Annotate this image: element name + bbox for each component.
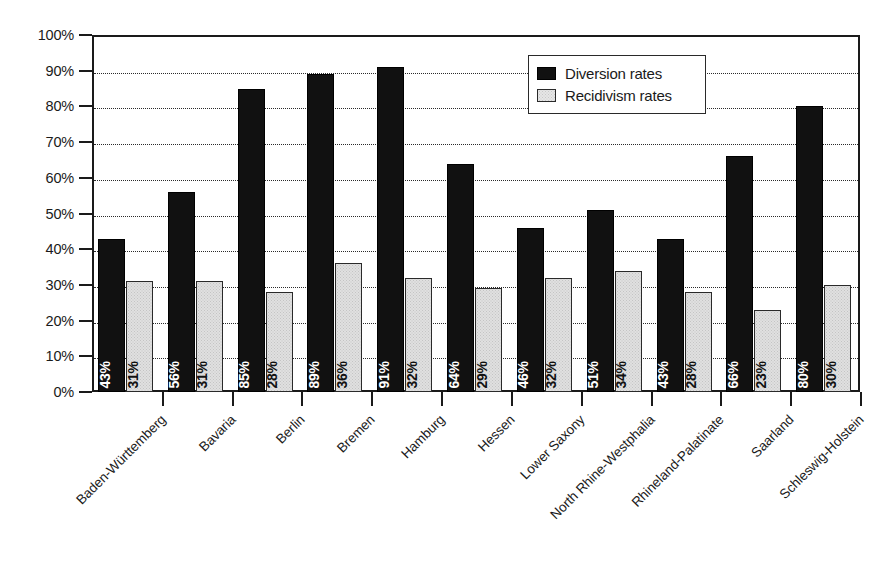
x-tick-label-text: Hamburg [398,412,447,461]
y-tick-mark [79,284,92,286]
bar-recidivism: 32% [545,278,572,392]
legend-item: Diversion rates [537,62,697,84]
bar-diversion: 43% [98,239,125,393]
y-tick-label: 20% [46,313,74,329]
x-tick-label-text: Saarland [749,412,797,460]
bar-recidivism: 30% [824,285,851,392]
bar-value-label: 31% [126,361,140,388]
y-tick-label: 90% [46,63,74,79]
bar-value-label: 32% [405,361,419,388]
bar-recidivism: 36% [335,263,362,392]
x-axis: Baden-WürttembergBavariaBerlinBremenHamb… [92,392,860,572]
y-tick-mark [79,320,92,322]
x-tick-label-text: Bremen [334,412,378,456]
bar-value-label: 64% [447,361,461,388]
bar-value-label: 36% [335,361,349,388]
y-tick-label: 0% [53,384,74,400]
bar-group: 43%31% [92,35,162,392]
y-tick-mark [79,248,92,250]
bar-diversion: 64% [447,164,474,392]
bar-diversion: 66% [726,156,753,392]
bar-group: 64%29% [441,35,511,392]
bar-recidivism: 32% [405,278,432,392]
bar-diversion: 89% [307,74,334,392]
y-tick-label: 30% [46,277,74,293]
x-tick-mark [860,392,862,406]
x-tick-label-text: Lower Saxony [517,412,587,482]
y-tick-label: 100% [38,27,74,43]
x-tick-mark [581,392,583,406]
y-tick-label: 60% [46,170,74,186]
bar-diversion: 51% [587,210,614,392]
bar-chart: 0%10%20%30%40%50%60%70%80%90%100% 43%31%… [0,0,885,572]
bar-recidivism: 28% [266,292,293,392]
legend-label: Recidivism rates [565,87,672,104]
x-tick-mark [511,392,513,406]
x-tick-mark [651,392,653,406]
bar-value-label: 91% [377,361,391,388]
y-tick-label: 70% [46,134,74,150]
y-tick-mark [79,177,92,179]
bar-value-label: 89% [307,361,321,388]
bar-value-label: 43% [656,361,670,388]
x-tick-mark [720,392,722,406]
bar-recidivism: 31% [126,281,153,392]
x-tick-label-text: Berlin [273,412,308,447]
bar-group: 56%31% [162,35,232,392]
legend-label: Diversion rates [565,65,662,82]
bar-value-label: 28% [265,361,279,388]
x-tick-mark [371,392,373,406]
x-tick-label-text: Bavaria [196,412,238,454]
bar-value-label: 85% [237,361,251,388]
bar-value-label: 46% [516,361,530,388]
bars-layer: 43%31%56%31%85%28%89%36%91%32%64%29%46%3… [92,35,860,392]
x-tick-mark [441,392,443,406]
y-tick-label: 10% [46,348,74,364]
bar-group: 91%32% [371,35,441,392]
bar-diversion: 80% [796,106,823,392]
y-tick-mark [79,34,92,36]
bar-value-label: 43% [98,361,112,388]
bar-value-label: 80% [796,361,810,388]
bar-value-label: 51% [586,361,600,388]
y-tick-mark [79,355,92,357]
x-tick-label-text: Hessen [475,412,518,455]
bar-value-label: 66% [726,361,740,388]
x-tick-mark [162,392,164,406]
x-tick-label: Schleswig-Holstein [856,333,885,423]
y-tick-label: 80% [46,98,74,114]
y-tick-mark [79,141,92,143]
bar-diversion: 43% [657,239,684,393]
bar-diversion: 46% [517,228,544,392]
y-tick-mark [79,213,92,215]
bar-value-label: 56% [167,361,181,388]
x-tick-mark [790,392,792,406]
y-tick-label: 40% [46,241,74,257]
y-tick-mark [79,105,92,107]
x-tick-mark [232,392,234,406]
legend-swatch-diversion [537,67,556,80]
bar-diversion: 91% [377,67,404,392]
legend-item: Recidivism rates [537,84,697,106]
legend-swatch-recidivism [537,89,556,102]
chart-legend: Diversion ratesRecidivism rates [528,55,706,114]
bar-value-label: 32% [544,361,558,388]
bar-group: 89%36% [301,35,371,392]
y-tick-mark [79,391,92,393]
y-tick-mark [79,70,92,72]
y-axis: 0%10%20%30%40%50%60%70%80%90%100% [0,0,92,572]
bar-diversion: 56% [168,192,195,392]
y-tick-label: 50% [46,206,74,222]
